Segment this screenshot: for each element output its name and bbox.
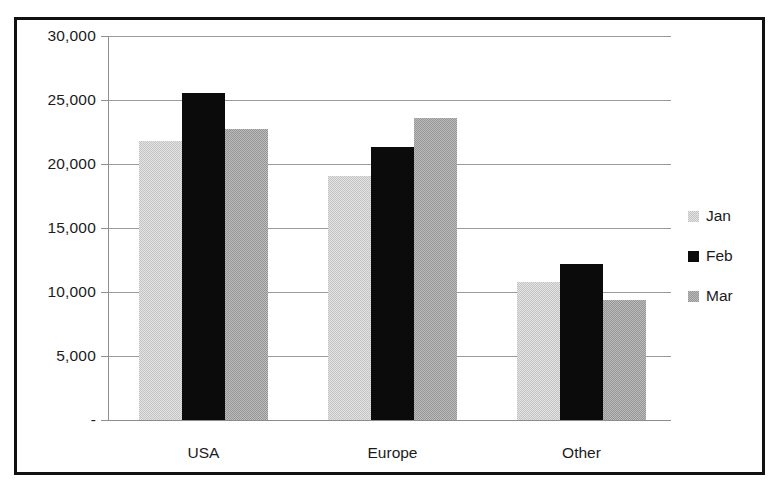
y-axis-label: 5,000 bbox=[56, 347, 96, 365]
bar-other-feb bbox=[560, 264, 603, 420]
y-axis-label: 10,000 bbox=[47, 283, 96, 301]
y-axis-tick bbox=[101, 228, 109, 229]
gridline bbox=[108, 36, 671, 37]
plot-area: 30,00025,00020,00015,00010,0005,000- USA… bbox=[108, 36, 671, 420]
y-axis-tick bbox=[101, 420, 109, 421]
legend-item-mar: Mar bbox=[688, 276, 758, 316]
bar-other-jan bbox=[517, 282, 560, 420]
y-axis-tick bbox=[101, 292, 109, 293]
legend-swatch-icon-jan bbox=[688, 211, 699, 222]
y-axis-label: 15,000 bbox=[47, 219, 96, 237]
y-axis-label: 20,000 bbox=[47, 155, 96, 173]
legend-item-jan: Jan bbox=[688, 196, 758, 236]
y-axis-tick bbox=[101, 356, 109, 357]
y-axis-label: - bbox=[91, 411, 96, 429]
legend-swatch-icon-feb bbox=[688, 251, 699, 262]
y-axis-label: 25,000 bbox=[47, 91, 96, 109]
legend: Jan Feb Mar bbox=[688, 196, 758, 316]
bar-usa-mar bbox=[225, 129, 268, 420]
legend-label-feb: Feb bbox=[706, 247, 733, 265]
y-axis-tick bbox=[101, 36, 109, 37]
bar-usa-jan bbox=[139, 141, 182, 420]
chart-frame: 30,00025,00020,00015,00010,0005,000- USA… bbox=[14, 17, 765, 475]
x-axis-label-europe: Europe bbox=[368, 444, 418, 462]
legend-item-feb: Feb bbox=[688, 236, 758, 276]
y-axis-label: 30,000 bbox=[47, 27, 96, 45]
x-axis-label-other: Other bbox=[562, 444, 601, 462]
bar-usa-feb bbox=[182, 93, 225, 420]
legend-swatch-icon-mar bbox=[688, 291, 699, 302]
y-axis-tick bbox=[101, 100, 109, 101]
bar-europe-feb bbox=[371, 147, 414, 420]
bar-europe-mar bbox=[414, 118, 457, 420]
bar-europe-jan bbox=[328, 176, 371, 420]
legend-label-mar: Mar bbox=[706, 287, 733, 305]
y-axis-tick bbox=[101, 164, 109, 165]
bar-other-mar bbox=[603, 300, 646, 420]
x-axis-label-usa: USA bbox=[188, 444, 220, 462]
legend-label-jan: Jan bbox=[706, 207, 731, 225]
gridline bbox=[108, 420, 671, 421]
